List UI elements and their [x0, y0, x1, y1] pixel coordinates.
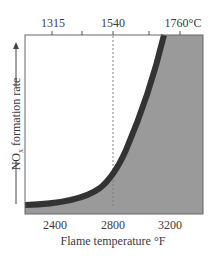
bottom-tick-label-3200: 3200 [158, 218, 182, 232]
top-axis-ticks [52, 31, 180, 35]
top-tick-label-1760: 1760°C [165, 16, 202, 30]
top-tick-label-1315: 1315 [41, 16, 65, 30]
bottom-tick-label-2800: 2800 [101, 218, 125, 232]
area-under-curve [25, 35, 203, 214]
x-axis-title: Flame temperature °F [61, 234, 166, 248]
y-axis-title: NOx formation rate [9, 78, 25, 171]
y-axis-title-group: NOx formation rate [9, 42, 25, 204]
arrow-up-icon [13, 42, 19, 49]
top-tick-label-1540: 1540 [101, 16, 125, 30]
nox-chart: 1315 1540 1760°C 2400 2800 3200 Flame te… [0, 0, 213, 258]
bottom-tick-label-2400: 2400 [43, 218, 67, 232]
